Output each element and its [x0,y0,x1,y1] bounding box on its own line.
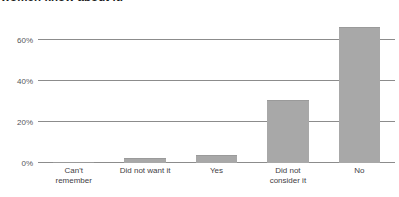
chart-title-emphasis: about it. [78,0,124,3]
bars-group [38,20,395,163]
bar-chart-figure: women know about it. 0%20%40%60% Can't r… [0,0,399,197]
bar[interactable] [339,27,380,163]
x-axis-label: Can't remember [38,166,109,185]
bar-slot [324,20,395,163]
bar[interactable] [124,158,165,163]
chart-title-lead: women know [1,0,78,3]
x-axis-labels-group: Can't rememberDid not want itYesDid not … [38,166,395,194]
bar[interactable] [267,100,308,163]
x-axis-label: No [324,166,395,176]
chart-title-clipped: women know about it. [0,0,399,4]
bar-slot [109,20,180,163]
x-axis-label: Did not want it [109,166,180,176]
bar-slot [38,20,109,163]
bar[interactable] [53,162,94,163]
y-tick-label-0: 0% [21,158,33,167]
bar-slot [252,20,323,163]
y-tick-label-20: 20% [17,117,33,126]
plot-area: 0%20%40%60% [38,20,395,163]
x-axis-label: Yes [181,166,252,176]
y-tick-label-40: 40% [17,76,33,85]
y-tick-label-60: 60% [17,35,33,44]
chart-title-text: women know about it. [0,0,399,4]
x-axis-label: Did not consider it [252,166,323,185]
bar-slot [181,20,252,163]
bar[interactable] [196,155,237,163]
